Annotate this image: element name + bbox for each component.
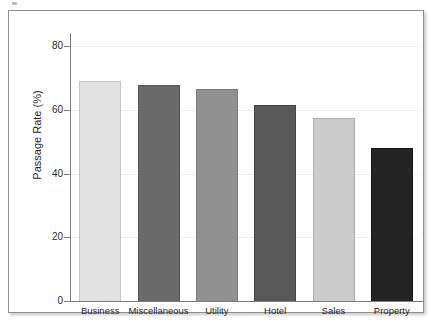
scan-artifact-speck: [12, 2, 17, 5]
y-tick-mark: [64, 174, 70, 175]
x-tick-label-property: Property: [357, 305, 427, 316]
y-axis-line: [70, 33, 71, 302]
bar-business: [79, 81, 121, 301]
figure-canvas: 020406080 Passage Rate (%) BusinessMisce…: [0, 0, 433, 332]
x-axis-line: [70, 301, 423, 302]
bar-property: [371, 148, 413, 301]
y-axis-title: Passage Rate (%): [31, 55, 43, 215]
gridline: [71, 237, 419, 238]
figure-frame: 020406080 Passage Rate (%) BusinessMisce…: [8, 10, 424, 313]
gridline: [71, 46, 419, 47]
y-tick-mark: [64, 46, 70, 47]
gridline: [71, 110, 419, 111]
y-tick-mark: [64, 301, 70, 302]
y-tick-label: 20: [29, 232, 63, 242]
y-tick-label-wrap: 80: [21, 41, 63, 51]
bar-utility: [196, 89, 238, 301]
bar-sales: [313, 118, 355, 301]
bar-miscellaneous: [138, 85, 180, 301]
y-tick-mark: [64, 237, 70, 238]
y-tick-label: 80: [29, 41, 63, 51]
y-tick-label-wrap: 0: [21, 296, 63, 306]
y-tick-label: 0: [29, 296, 63, 306]
bar-hotel: [254, 105, 296, 301]
y-tick-label-wrap: 20: [21, 232, 63, 242]
y-tick-mark: [64, 110, 70, 111]
gridline: [71, 174, 419, 175]
